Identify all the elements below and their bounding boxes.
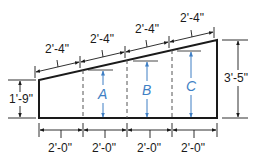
bottom-segment-2-label: 2'-0" [92,141,116,155]
bottom-segment-3-label: 2'-0" [137,141,161,155]
divider-lines [83,50,172,118]
right-height-label: 3'-5" [224,71,248,85]
top-segment-4-label: 2'-4" [180,11,204,25]
left-height-label: 1'-9" [9,92,33,106]
top-segment-1-label: 2'-4" [45,42,69,56]
height-c-label: C [186,78,197,94]
bottom-segment-4-label: 2'-0" [181,141,205,155]
bottom-segment-1-label: 2'-0" [48,141,72,155]
height-a-label: A [97,86,107,102]
height-b-label: B [142,82,151,98]
top-segment-3-label: 2'-4" [135,22,159,36]
bottom-dimension [39,123,217,138]
top-segment-2-label: 2'-4" [90,32,114,46]
wall-diagram: 2'-4" 2'-4" 2'-4" 2'-4" 2'-0" 2'-0" 2'-0… [0,0,259,166]
